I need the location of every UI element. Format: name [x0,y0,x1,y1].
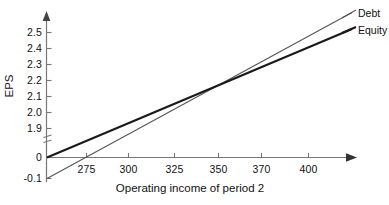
x-tick-label-325: 325 [154,163,195,175]
legend-label-equity: Equity [358,24,387,36]
y-tick-label-0: 0 [6,151,42,163]
y-tick-label-neg-0-1: -0.1 [2,172,42,184]
x-axis-ticks [87,153,309,158]
eps-operating-income-chart: 2.5 2.4 2.3 2.2 2.1 2.0 1.9 0 -0.1 275 3… [0,0,389,205]
y-tick-label-2-0: 2.0 [6,106,42,118]
x-axis-arrowhead [346,153,357,162]
series-line-debt [47,13,352,179]
legend-label-debt: Debt [358,7,380,19]
y-axis-title: EPS [3,66,15,106]
y-tick-label-2-5: 2.5 [6,26,42,38]
x-axis-title: Operating income of period 2 [60,182,320,194]
x-tick-label-300: 300 [108,163,149,175]
y-tick-label-1-9: 1.9 [6,122,42,134]
x-tick-label-370: 370 [241,163,282,175]
x-tick-label-350: 350 [198,163,239,175]
y-axis-arrowhead [43,11,51,21]
y-tick-label-2-4: 2.4 [6,42,42,54]
series-line-equity [47,29,352,158]
legend-leader-debt [342,10,356,18]
legend-leader-equity [342,27,356,33]
y-axis-break-icon [44,135,52,143]
x-tick-label-400: 400 [288,163,329,175]
x-tick-label-275: 275 [66,163,107,175]
